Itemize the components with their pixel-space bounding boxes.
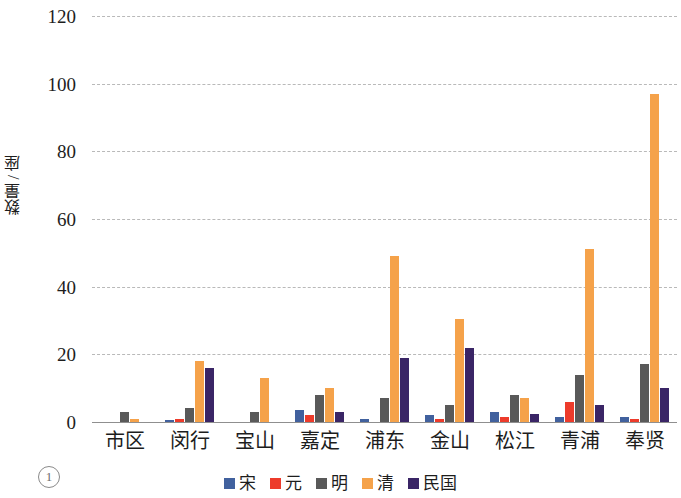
bar-group bbox=[92, 16, 157, 422]
legend-item-label: 宋 bbox=[239, 475, 256, 492]
bar-group bbox=[222, 16, 287, 422]
legend-item[interactable]: 元 bbox=[270, 475, 302, 492]
bar-group bbox=[612, 16, 677, 422]
y-axis-tick-label: 80 bbox=[57, 142, 76, 161]
legend-item[interactable]: 清 bbox=[362, 475, 394, 492]
legend-swatch-icon bbox=[270, 478, 281, 489]
bar bbox=[555, 417, 564, 422]
x-axis-tick-labels: 市区闵行宝山嘉定浦东金山松江青浦奉贤 bbox=[92, 426, 677, 458]
bar bbox=[650, 94, 659, 422]
bar bbox=[165, 420, 174, 422]
bar bbox=[325, 388, 334, 422]
x-axis-tick-label: 金山 bbox=[417, 426, 482, 458]
figure-number-marker: 1 bbox=[38, 466, 60, 488]
x-axis-tick-label: 青浦 bbox=[547, 426, 612, 458]
bar bbox=[490, 412, 499, 422]
bar-group bbox=[352, 16, 417, 422]
legend-item-label: 民国 bbox=[423, 475, 457, 492]
plot-area bbox=[92, 16, 677, 422]
bar-group bbox=[547, 16, 612, 422]
bar bbox=[205, 368, 214, 422]
bar bbox=[315, 395, 324, 422]
x-axis-tick-label: 市区 bbox=[92, 426, 157, 458]
y-axis-tick-labels: 020406080100120 bbox=[0, 16, 86, 422]
bar bbox=[455, 319, 464, 422]
bar bbox=[575, 375, 584, 422]
legend-item-label: 元 bbox=[285, 475, 302, 492]
bar bbox=[435, 419, 444, 422]
bar bbox=[195, 361, 204, 422]
x-axis-tick-label: 松江 bbox=[482, 426, 547, 458]
bar bbox=[640, 364, 649, 422]
bar bbox=[500, 417, 509, 422]
y-axis-tick-label: 20 bbox=[57, 345, 76, 364]
x-axis-tick-label: 闵行 bbox=[157, 426, 222, 458]
bar bbox=[425, 415, 434, 422]
y-axis-tick-label: 40 bbox=[57, 277, 76, 296]
bar bbox=[380, 398, 389, 422]
bar bbox=[585, 249, 594, 422]
legend-swatch-icon bbox=[362, 478, 373, 489]
bar-group bbox=[157, 16, 222, 422]
bar bbox=[250, 412, 259, 422]
legend-item-label: 清 bbox=[377, 475, 394, 492]
bar bbox=[660, 388, 669, 422]
y-axis-tick-label: 120 bbox=[48, 7, 77, 26]
bar bbox=[295, 410, 304, 422]
legend-swatch-icon bbox=[408, 478, 419, 489]
bar bbox=[185, 408, 194, 422]
gridline bbox=[92, 422, 677, 423]
bar-group bbox=[287, 16, 352, 422]
bar bbox=[520, 398, 529, 422]
y-axis-tick-label: 60 bbox=[57, 210, 76, 229]
bar bbox=[465, 348, 474, 422]
bar bbox=[260, 378, 269, 422]
bar bbox=[510, 395, 519, 422]
y-axis-tick-label: 0 bbox=[67, 413, 77, 432]
bar bbox=[360, 419, 369, 422]
bar bbox=[400, 358, 409, 422]
legend-item[interactable]: 民国 bbox=[408, 475, 457, 492]
chart-legend: 宋元明清民国 bbox=[0, 470, 681, 496]
bar-group bbox=[482, 16, 547, 422]
bar-groups bbox=[92, 16, 677, 422]
bar-chart: 数量 / 座 020406080100120 市区闵行宝山嘉定浦东金山松江青浦奉… bbox=[0, 0, 681, 498]
bar bbox=[390, 256, 399, 422]
bar bbox=[595, 405, 604, 422]
bar bbox=[630, 419, 639, 422]
x-axis-tick-label: 奉贤 bbox=[612, 426, 677, 458]
bar-group bbox=[417, 16, 482, 422]
x-axis-tick-label: 嘉定 bbox=[287, 426, 352, 458]
legend-item-label: 明 bbox=[331, 475, 348, 492]
bar bbox=[620, 417, 629, 422]
x-axis-tick-label: 宝山 bbox=[222, 426, 287, 458]
legend-item[interactable]: 明 bbox=[316, 475, 348, 492]
y-axis-tick-label: 100 bbox=[48, 74, 77, 93]
bar bbox=[445, 405, 454, 422]
bar bbox=[130, 419, 139, 422]
x-axis-tick-label: 浦东 bbox=[352, 426, 417, 458]
legend-item[interactable]: 宋 bbox=[224, 475, 256, 492]
bar bbox=[305, 415, 314, 422]
bar bbox=[120, 412, 129, 422]
legend-swatch-icon bbox=[224, 478, 235, 489]
bar bbox=[530, 414, 539, 422]
bar bbox=[175, 419, 184, 422]
bar bbox=[335, 412, 344, 422]
bar bbox=[565, 402, 574, 422]
legend-swatch-icon bbox=[316, 478, 327, 489]
